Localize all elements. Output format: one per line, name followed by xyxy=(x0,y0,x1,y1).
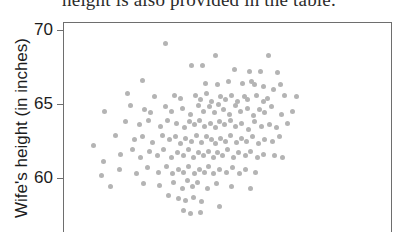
data-point xyxy=(108,184,113,189)
data-point xyxy=(186,147,191,152)
data-point xyxy=(207,104,212,109)
data-point xyxy=(274,125,279,130)
data-point xyxy=(277,134,282,139)
data-point xyxy=(137,122,142,127)
data-point xyxy=(181,208,186,213)
data-point xyxy=(141,181,146,186)
data-point xyxy=(223,97,228,102)
data-point xyxy=(229,184,234,189)
data-point xyxy=(279,112,284,117)
data-point xyxy=(183,198,188,203)
data-point xyxy=(152,94,157,99)
data-point xyxy=(169,155,174,160)
data-point xyxy=(216,102,221,107)
data-point xyxy=(128,103,133,108)
data-point xyxy=(193,93,198,98)
data-point xyxy=(191,195,196,200)
data-point xyxy=(290,109,295,114)
data-point xyxy=(245,97,250,102)
data-point xyxy=(147,149,152,154)
data-point xyxy=(275,70,280,75)
data-point xyxy=(172,93,177,98)
data-point xyxy=(181,170,186,175)
data-point xyxy=(91,143,96,148)
data-point xyxy=(201,109,206,114)
data-point xyxy=(146,118,151,123)
data-point xyxy=(145,165,150,170)
data-point xyxy=(213,141,218,146)
data-point xyxy=(252,119,257,124)
data-point xyxy=(142,107,147,112)
data-point xyxy=(217,204,222,209)
data-point xyxy=(213,125,218,130)
data-point xyxy=(256,141,261,146)
data-point xyxy=(228,118,233,123)
data-point xyxy=(123,119,128,124)
data-point xyxy=(166,193,171,198)
data-point xyxy=(163,104,168,109)
data-point xyxy=(196,103,201,108)
data-point xyxy=(262,137,267,142)
data-point xyxy=(211,155,216,160)
data-point xyxy=(245,106,250,111)
data-point xyxy=(262,110,267,115)
data-point xyxy=(248,186,253,191)
data-point xyxy=(180,186,185,191)
data-point xyxy=(267,122,272,127)
y-axis-tick-mark xyxy=(57,30,64,31)
data-point xyxy=(175,150,180,155)
data-point xyxy=(206,149,211,154)
data-point xyxy=(271,87,276,92)
data-point xyxy=(134,171,139,176)
data-point xyxy=(248,149,253,154)
data-point xyxy=(171,180,176,185)
data-point xyxy=(208,121,213,126)
data-point xyxy=(118,152,123,157)
data-point xyxy=(251,113,256,118)
data-point xyxy=(234,140,239,145)
data-point xyxy=(243,153,248,158)
data-point xyxy=(178,96,183,101)
data-point xyxy=(214,181,219,186)
y-axis-tick-mark xyxy=(57,178,64,179)
data-point xyxy=(203,81,208,86)
data-point xyxy=(202,124,207,129)
data-point xyxy=(161,147,166,152)
data-point xyxy=(222,122,227,127)
data-point xyxy=(202,170,207,175)
data-point xyxy=(229,93,234,98)
data-point xyxy=(255,155,260,160)
data-point xyxy=(130,147,135,152)
data-point xyxy=(220,153,225,158)
data-point xyxy=(257,107,262,112)
data-point xyxy=(204,134,209,139)
data-point xyxy=(294,94,299,99)
data-point xyxy=(227,112,232,117)
data-point xyxy=(138,155,143,160)
data-point xyxy=(226,79,231,84)
data-point xyxy=(199,199,204,204)
data-point xyxy=(181,153,186,158)
data-point xyxy=(186,164,191,169)
data-point xyxy=(192,122,197,127)
data-point xyxy=(239,121,244,126)
data-point xyxy=(233,103,238,108)
data-point xyxy=(173,134,178,139)
y-axis-title: Wife's height (in inches) xyxy=(12,23,32,232)
data-point xyxy=(221,107,226,112)
data-point xyxy=(205,186,210,191)
data-point xyxy=(246,127,251,132)
data-point xyxy=(285,121,290,126)
data-point xyxy=(182,125,187,130)
scatter-plot: 706560 Wife's height (in inches) xyxy=(0,0,398,232)
data-point xyxy=(230,165,235,170)
data-point xyxy=(188,211,193,216)
data-point xyxy=(125,91,130,96)
data-point xyxy=(192,171,197,176)
data-point xyxy=(167,137,172,142)
data-point xyxy=(198,97,203,102)
data-point xyxy=(236,150,241,155)
data-point xyxy=(99,173,104,178)
data-point xyxy=(258,69,263,74)
data-point xyxy=(198,210,203,215)
